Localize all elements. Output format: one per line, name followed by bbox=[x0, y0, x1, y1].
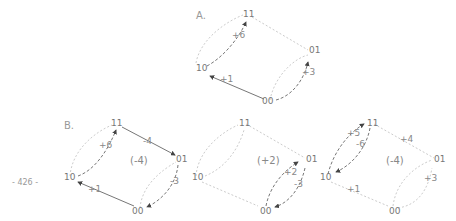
node-10: 10 bbox=[196, 63, 208, 73]
diagram-b2: 11 01 10 00 (+2) +2 -3 bbox=[192, 118, 317, 216]
edge-label-00-10: +1 bbox=[220, 74, 233, 84]
edge-label-10-11: +6 bbox=[99, 140, 113, 150]
edge-10-00 bbox=[202, 182, 258, 206]
node-10: 10 bbox=[64, 172, 76, 182]
center-value: (+2) bbox=[257, 155, 280, 166]
edge-label-01-00: -3 bbox=[170, 176, 179, 186]
panel-label-a: A. bbox=[196, 10, 206, 21]
node-11: 11 bbox=[111, 118, 122, 128]
node-01: 01 bbox=[434, 154, 445, 164]
curve-10-11-inner bbox=[205, 130, 244, 176]
node-00: 00 bbox=[389, 206, 401, 216]
arrow-00-10 bbox=[78, 182, 134, 206]
node-00: 00 bbox=[262, 96, 274, 106]
page-number: - 426 - bbox=[12, 178, 38, 187]
node-11: 11 bbox=[243, 9, 254, 19]
edge-label-00-10: +1 bbox=[88, 184, 101, 194]
node-01: 01 bbox=[176, 154, 187, 164]
diagram-a: A. 11 01 10 00 +6 +1 +3 bbox=[196, 9, 320, 106]
node-01: 01 bbox=[306, 154, 317, 164]
edge-11-01 bbox=[252, 17, 308, 50]
edge-label-00-10: +1 bbox=[347, 184, 360, 194]
edge-label-11-01: +4 bbox=[400, 134, 414, 144]
node-10: 10 bbox=[320, 172, 332, 182]
edge-label-11-10: -6 bbox=[356, 139, 365, 149]
panel-label-b: B. bbox=[64, 120, 74, 131]
node-00: 00 bbox=[260, 206, 272, 216]
diagram-b1: B. 11 01 10 00 (-4) +6 -4 +1 -3 bbox=[64, 118, 187, 216]
curve-10-11-outer bbox=[196, 125, 238, 176]
node-10: 10 bbox=[192, 172, 204, 182]
curve-00-01-outer bbox=[393, 160, 432, 206]
center-value: (-4) bbox=[130, 155, 148, 166]
center-value: (-4) bbox=[386, 155, 404, 166]
node-11: 11 bbox=[367, 118, 378, 128]
edge-11-01 bbox=[246, 124, 305, 158]
diagram-canvas: A. 11 01 10 00 +6 +1 +3 - 426 - B. 11 01… bbox=[0, 0, 456, 221]
arrow-10-11 bbox=[207, 22, 246, 66]
edge-label-00-01: +3 bbox=[424, 173, 437, 183]
diagram-b3: 11 01 10 00 (-4) +5 -6 +4 +1 +3 bbox=[320, 118, 445, 216]
edge-label-01-00: -3 bbox=[294, 179, 303, 189]
edge-label-10-11: +5 bbox=[347, 128, 360, 138]
edge-label-10-11: +6 bbox=[232, 30, 246, 40]
node-01: 01 bbox=[309, 45, 320, 55]
edge-label-00-01: +3 bbox=[302, 67, 315, 77]
arrow-10-11 bbox=[78, 130, 116, 176]
node-11: 11 bbox=[239, 118, 250, 128]
edge-label-11-01: -4 bbox=[143, 136, 152, 146]
edge-label-00-01: +2 bbox=[284, 167, 297, 177]
arrow-00-10 bbox=[210, 76, 264, 99]
node-00: 00 bbox=[132, 206, 144, 216]
